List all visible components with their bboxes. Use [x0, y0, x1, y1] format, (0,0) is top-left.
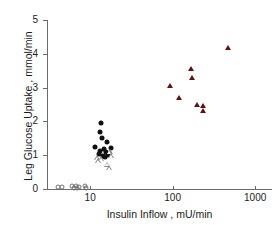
y-tick-mark [43, 54, 47, 55]
data-point-filled-circle [99, 136, 104, 141]
y-tick-mark [43, 20, 47, 21]
x-tick-mark [90, 186, 91, 190]
x-axis-title: Insulin Inflow , mU/min [47, 208, 272, 220]
data-point-filled-circle [92, 144, 97, 149]
data-point-filled-circle [104, 140, 109, 145]
x-tick-mark [255, 186, 256, 190]
data-point-filled-triangle [167, 83, 173, 88]
y-tick-mark [43, 121, 47, 122]
data-point-open-circle [83, 185, 88, 190]
data-point-filled-circle [98, 121, 103, 126]
plot-data-area [0, 0, 280, 225]
x-tick-label: 100 [164, 193, 181, 203]
data-point-filled-triangle [189, 75, 195, 80]
data-point-filled-triangle [188, 66, 194, 71]
data-point-open-circle [76, 184, 81, 189]
y-tick-mark [43, 155, 47, 156]
x-axis-line [47, 189, 272, 190]
y-axis-line [47, 20, 48, 189]
x-tick-mark [173, 186, 174, 190]
data-point-open-triangle [106, 165, 112, 170]
x-tick-label: 1000 [244, 193, 266, 203]
y-tick-mark [43, 189, 47, 190]
y-axis-title: Leg Glucose Uptake , mmol/min [22, 21, 34, 191]
data-point-open-circle [59, 185, 64, 190]
y-tick-mark [43, 88, 47, 89]
x-tick-label: 10 [85, 193, 96, 203]
data-point-filled-triangle [176, 95, 182, 100]
data-point-filled-triangle [200, 108, 206, 113]
data-point-filled-triangle [225, 45, 231, 50]
scatter-plot-figure: 012345 101001000 Leg Glucose Uptake , mm… [0, 0, 280, 225]
data-point-open-triangle [98, 156, 104, 161]
data-point-filled-circle [97, 129, 102, 134]
data-point-open-triangle [108, 153, 114, 158]
